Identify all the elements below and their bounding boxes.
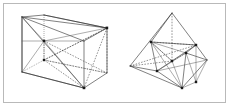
- poly-edge-left-bottom: [130, 66, 182, 88]
- inscribed-dashed-btr-fbr: [84, 28, 107, 88]
- right-panel-triangulated-polyhedron: [130, 13, 207, 89]
- cube-edge-top-left-depth: [22, 15, 44, 17]
- inscribed-dashed-bbl-to-apex: [44, 28, 107, 60]
- poly-edge-lowermid-bottom: [157, 71, 182, 88]
- inscribed-edge-apex-left: [22, 17, 44, 41]
- vertex-dot-front-bottom-right: [83, 87, 86, 90]
- poly-edge-apex-left: [130, 13, 172, 66]
- poly-inner-center-bottom: [172, 61, 182, 88]
- polyhedron-outer-edges: [130, 13, 207, 88]
- left-panel-cube-with-inscribed-polyhedron: [22, 15, 108, 89]
- vertex-dot-midleft: [150, 41, 152, 43]
- inscribed-edge-ftl-btr: [22, 17, 107, 28]
- inscribed-dashed-ftl-bbr: [44, 41, 107, 73]
- cube-hidden-edge-bottom-left-depth: [22, 60, 44, 72]
- poly-edge-right-innerupper: [186, 53, 207, 60]
- vertex-dot-back-bottom-left: [43, 59, 45, 61]
- polyhedron-inner-dashed-edges: [130, 13, 196, 66]
- poly-edge-apex-midright: [172, 13, 196, 45]
- vertex-dot-inner-apex: [43, 40, 45, 42]
- cube-edge-front-top: [22, 17, 84, 41]
- poly-edge-apex-midleft: [151, 13, 172, 42]
- cube-outer-edges: [22, 15, 107, 88]
- inscribed-edge-apex-down-left: [22, 41, 44, 72]
- poly-inner-center-midright: [172, 45, 196, 61]
- inscribed-edge-diag-btl-btr: [44, 15, 107, 28]
- vertex-dot-rightlow: [195, 81, 197, 83]
- vertex-dot-inner-center: [171, 60, 173, 62]
- poly-edge-innerupper-bottom: [182, 53, 186, 88]
- poly-edge-bottom-rightlow: [182, 82, 196, 88]
- poly-dashed-left-midright: [130, 45, 196, 66]
- inscribed-edge-fbl-fbr: [22, 72, 84, 88]
- inscribed-edge-apex-to-front-top-right: [44, 28, 107, 41]
- vertex-dot-bottom: [181, 87, 183, 89]
- poly-edge-bottom-right: [182, 60, 207, 88]
- cube-edge-bottom-right-depth: [84, 73, 107, 88]
- vertex-dot-lowermid: [156, 70, 158, 72]
- vertex-dot-midright: [195, 44, 197, 46]
- inscribed-polyhedron-solid-edges: [22, 15, 107, 88]
- inscribed-edge-apex-down-right: [44, 41, 84, 88]
- vertex-dot-innerupper: [185, 52, 187, 54]
- vertex-dot-front-top-right: [106, 27, 109, 30]
- poly-edge-right-down: [196, 60, 207, 82]
- poly-inner-midleft-innerupper: [151, 42, 186, 53]
- poly-edge-midright-right: [196, 45, 207, 60]
- poly-edge-left-lowermid: [130, 66, 157, 71]
- geometry-figure-canvas: [0, 0, 231, 108]
